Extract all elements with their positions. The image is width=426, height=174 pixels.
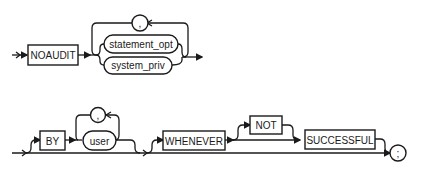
- user-pill: user: [83, 131, 116, 150]
- by-whenever-diagram: BY , user WHENEVER NOT: [12, 108, 406, 162]
- statement-opt-label: statement_opt: [109, 39, 173, 50]
- comma-separator-circle: ,: [132, 15, 148, 31]
- noaudit-label: NOAUDIT: [31, 50, 76, 61]
- by-keyword-box: BY: [40, 131, 65, 150]
- system-priv-label: system_priv: [111, 60, 164, 71]
- noaudit-diagram: NOAUDIT , statement_opt system_priv: [12, 15, 202, 74]
- by-label: BY: [46, 136, 60, 147]
- comma-label: ,: [139, 18, 142, 29]
- semicolon-terminator-circle: ;: [390, 145, 406, 161]
- successful-label: SUCCESSFUL: [306, 135, 374, 146]
- system-priv-pill: system_priv: [104, 57, 172, 74]
- noaudit-keyword-box: NOAUDIT: [28, 45, 78, 65]
- statement-opt-pill: statement_opt: [104, 35, 178, 53]
- entry-arrow-icon: [12, 52, 27, 58]
- whenever-keyword-box: WHENEVER: [163, 131, 225, 150]
- user-comma-separator-circle: ,: [91, 108, 106, 123]
- user-label: user: [90, 136, 110, 147]
- semicolon-label: ;: [397, 148, 400, 159]
- syntax-diagram: NOAUDIT , statement_opt system_priv: [0, 0, 426, 174]
- whenever-label: WHENEVER: [165, 136, 223, 147]
- user-comma-label: ,: [97, 110, 100, 121]
- successful-keyword-box: SUCCESSFUL: [305, 130, 375, 149]
- not-label: NOT: [255, 120, 276, 131]
- not-keyword-box: NOT: [250, 116, 282, 134]
